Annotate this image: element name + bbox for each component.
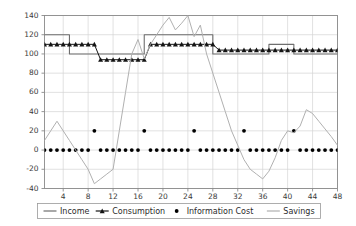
legend-label: Consumption [112,207,165,216]
marker-dot [304,148,308,152]
marker-dot [329,148,333,152]
marker-dot [267,148,271,152]
x-tick-label: 32 [233,192,243,201]
marker-dot [142,129,146,133]
marker-dot [99,148,103,152]
x-tick-label: 20 [158,192,168,201]
marker-dot [192,129,196,133]
marker-dot [86,148,90,152]
marker-dot [230,148,234,152]
marker-dot [49,148,53,152]
marker-dot [273,148,277,152]
marker-dot [136,148,140,152]
x-tick-label: 36 [258,192,268,201]
y-tick-label: 60 [29,87,39,96]
y-tick-label: 0 [34,145,39,154]
x-tick-label: 12 [108,192,118,201]
y-tick-label: 100 [24,49,39,58]
x-tick-label: 8 [86,192,91,201]
chart-legend[interactable]: IncomeConsumptionInformation CostSavings [38,204,321,219]
marker-dot [149,148,153,152]
legend-label: Income [60,207,90,216]
marker-dot [323,148,327,152]
legend-item-information-cost[interactable]: Information Cost [175,207,254,216]
legend-label: Information Cost [187,207,254,216]
y-tick-label: 80 [29,68,39,77]
x-tick-label: 40 [283,192,293,201]
y-tick-label: -20 [26,164,38,173]
marker-dot [298,148,302,152]
legend-dot-icon [175,209,179,213]
marker-dot [167,148,171,152]
y-tick-label: 140 [24,11,39,20]
marker-dot [217,148,221,152]
marker-dot [242,129,246,133]
marker-dot [92,129,96,133]
marker-dot [180,148,184,152]
x-tick-label: 28 [208,192,218,201]
marker-dot [105,148,109,152]
marker-dot [161,148,165,152]
marker-dot [286,148,290,152]
marker-dot [61,148,65,152]
legend-label: Savings [283,207,314,216]
marker-dot [130,148,134,152]
x-tick-label: 4 [61,192,66,201]
marker-dot [80,148,84,152]
marker-dot [317,148,321,152]
y-tick-label: 40 [29,107,39,116]
x-tick-label: 44 [308,192,318,201]
marker-dot [311,148,315,152]
marker-dot [248,148,252,152]
marker-dot [155,148,159,152]
y-tick-label: 20 [29,126,39,135]
marker-dot [117,148,121,152]
marker-dot [186,148,190,152]
marker-dot [174,148,178,152]
chart-background [0,0,356,226]
x-tick-label: 48 [333,192,343,201]
marker-dot [255,148,259,152]
chart-root: -40-20020406080100120140 481216202428323… [0,0,356,226]
marker-dot [55,148,59,152]
marker-dot [124,148,128,152]
x-tick-label: 24 [183,192,193,201]
marker-dot [111,148,115,152]
marker-dot [279,148,283,152]
y-tick-label: -40 [26,184,38,193]
y-tick-label: 120 [24,30,39,39]
line-chart: -40-20020406080100120140 481216202428323… [0,0,356,226]
marker-dot [261,148,265,152]
marker-dot [68,148,72,152]
marker-dot [223,148,227,152]
marker-dot [211,148,215,152]
x-tick-label: 16 [133,192,143,201]
marker-dot [205,148,209,152]
marker-dot [198,148,202,152]
